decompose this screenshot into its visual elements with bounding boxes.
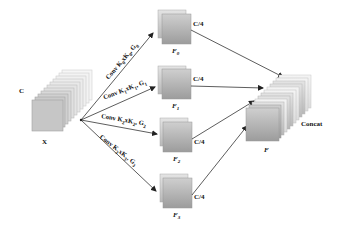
input-name-label: X: [42, 138, 47, 146]
arrow-f0-concat: [191, 30, 283, 77]
feature-map-f3: [160, 174, 192, 208]
diagram-graphics: [0, 0, 341, 229]
arrow-f2-concat: [192, 101, 254, 139]
feature-name-f2: F2: [173, 155, 180, 164]
channels-label-f0: C/4: [193, 20, 204, 28]
channels-label-f2: C/4: [194, 138, 205, 146]
branch-origin-dot: [80, 119, 82, 121]
feature-name-f3: F3: [173, 211, 180, 220]
arrow-f3-concat: [192, 126, 247, 195]
arrow-f1-concat: [191, 86, 263, 88]
feature-map-f1: [158, 66, 191, 99]
input-channel-label: C: [19, 87, 24, 95]
concat-label: Concat: [301, 120, 322, 128]
feature-name-f0: F0: [172, 47, 179, 56]
feature-map-f2: [160, 118, 192, 152]
channels-label-f3: C/4: [194, 193, 205, 201]
diagram-canvas: C X Conv K0xK0, G0 Conv K1xK1, G1 Conv K…: [0, 0, 341, 229]
output-feature-stack: [246, 75, 311, 141]
feature-name-f1: F1: [172, 102, 179, 111]
output-name-label: F: [264, 146, 269, 154]
feature-map-f0: [158, 10, 191, 44]
channels-label-f1: C/4: [193, 75, 204, 83]
